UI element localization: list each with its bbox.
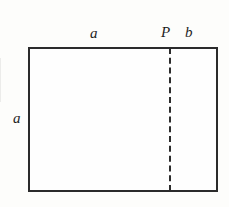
label-point-p: P (161, 25, 170, 40)
scan-edge-artifact (0, 58, 1, 102)
geometry-figure: a P b a (0, 0, 229, 207)
dashed-divider-line (169, 48, 171, 191)
label-top-segment-b: b (185, 25, 193, 40)
outer-rectangle (28, 47, 218, 192)
label-top-segment-a: a (90, 26, 98, 41)
label-left-side-a: a (13, 111, 21, 126)
